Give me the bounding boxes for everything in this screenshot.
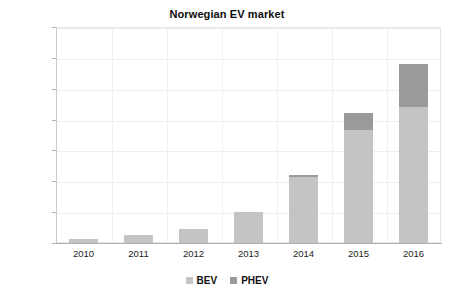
bar-stack-2015[interactable] [344,113,373,243]
y-gridline [57,90,440,91]
legend-item-bev[interactable]: BEV [186,275,218,286]
y-gridline [57,28,440,29]
y-axis-tick [52,89,56,90]
x-gridline [332,28,333,242]
x-axis-tick-label: 2015 [331,248,386,259]
bar-segment-bev[interactable] [234,212,263,243]
y-axis-tick [52,212,56,213]
bar-stack-2011[interactable] [124,235,153,243]
chart-container: Norwegian EV market 020,00040,00060,0008… [0,0,454,300]
bar-stack-2010[interactable] [69,239,98,243]
y-axis-tick [52,120,56,121]
x-gridline [167,28,168,242]
bar-segment-bev[interactable] [69,239,98,243]
bar-stack-2013[interactable] [234,212,263,243]
y-gridline [57,182,440,183]
bar-stack-2016[interactable] [399,64,428,243]
y-axis-line [56,27,57,244]
y-gridline [57,59,440,60]
x-gridline [277,28,278,242]
y-axis-tick [52,58,56,59]
bar-segment-bev[interactable] [344,130,373,243]
bar-segment-bev[interactable] [179,229,208,243]
x-axis-tick-label: 2013 [221,248,276,259]
bar-segment-bev[interactable] [289,177,318,243]
legend-item-phev[interactable]: PHEV [230,275,268,286]
y-gridline [57,151,440,152]
x-axis-line [56,243,442,244]
x-axis-tick-label: 2010 [56,248,111,259]
chart-title: Norwegian EV market [0,8,454,21]
bar-segment-phev[interactable] [344,113,373,130]
y-axis-tick [52,243,56,244]
bar-stack-2014[interactable] [289,175,318,243]
y-axis-tick [52,27,56,28]
y-axis-tick [52,150,56,151]
chart-legend: BEVPHEV [0,275,454,286]
bar-segment-phev[interactable] [399,64,428,107]
y-gridline [57,121,440,122]
x-axis-tick-label: 2012 [166,248,221,259]
legend-swatch-icon [186,277,193,284]
bar-stack-2012[interactable] [179,229,208,243]
x-gridline [222,28,223,242]
legend-label: PHEV [241,275,268,286]
legend-label: BEV [197,275,218,286]
x-axis-tick-label: 2014 [276,248,331,259]
x-gridline [387,28,388,242]
bar-segment-bev[interactable] [124,235,153,243]
y-axis-tick [52,181,56,182]
bar-segment-bev[interactable] [399,107,428,243]
x-axis-tick-label: 2011 [111,248,166,259]
plot-area [56,27,441,243]
x-gridline [112,28,113,242]
legend-swatch-icon [230,277,237,284]
x-axis-tick-label: 2016 [386,248,441,259]
